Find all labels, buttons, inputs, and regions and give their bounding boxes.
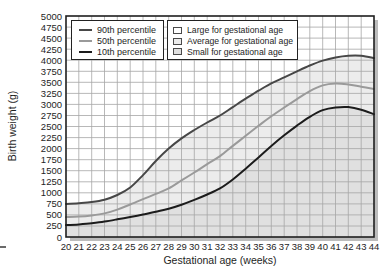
- y-tick-label: 4250: [26, 44, 62, 55]
- y-axis-title: Birth weight (g): [6, 91, 18, 162]
- y-tick-label: 3000: [26, 99, 62, 110]
- x-tick-label: 44: [364, 241, 384, 252]
- area-legend-row: Average for gestational age: [173, 36, 297, 47]
- y-tick-label: 2500: [26, 121, 62, 132]
- line-legend-label: 50th percentile: [97, 36, 156, 46]
- y-tick-label: 2000: [26, 143, 62, 154]
- y-tick-label: 250: [26, 220, 62, 231]
- line-legend-row: 50th percentile: [79, 36, 163, 47]
- y-tick-label: 2250: [26, 132, 62, 143]
- y-tick-label: 2750: [26, 110, 62, 121]
- line-legend-row: 90th percentile: [79, 25, 163, 36]
- area-swatch-small: [173, 48, 182, 55]
- line-legend-label: 90th percentile: [97, 25, 156, 35]
- area-legend-row: Large for gestational age: [173, 25, 297, 36]
- line-swatch-90th-percentile: [79, 29, 92, 31]
- y-tick-label: 1500: [26, 165, 62, 176]
- area-legend-label: Average for gestational age: [187, 36, 293, 46]
- y-tick-label: 1750: [26, 154, 62, 165]
- line-legend-row: 10th percentile: [79, 46, 163, 57]
- line-swatch-50th-percentile: [79, 40, 92, 42]
- y-tick-label: 1000: [26, 187, 62, 198]
- line-swatch-10th-percentile: [79, 51, 92, 53]
- y-tick-label: 3500: [26, 77, 62, 88]
- y-tick-label: 4000: [26, 55, 62, 66]
- area-legend-label: Small for gestational age: [187, 47, 283, 57]
- page-scan-artifact: [0, 246, 6, 248]
- y-tick-label: 750: [26, 198, 62, 209]
- area-legend: Large for gestational age Average for ge…: [167, 20, 298, 60]
- line-legend: 90th percentile 50th percentile 10th per…: [71, 20, 164, 60]
- area-legend-label: Large for gestational age: [187, 25, 283, 35]
- y-tick-label: 3750: [26, 66, 62, 77]
- area-swatch-large: [173, 27, 182, 34]
- y-tick-label: 1250: [26, 176, 62, 187]
- y-tick-label: 4750: [26, 22, 62, 33]
- y-tick-label: 5000: [26, 11, 62, 22]
- x-axis-title: Gestational age (weeks): [66, 254, 374, 266]
- y-tick-label: 500: [26, 209, 62, 220]
- y-tick-label: 3250: [26, 88, 62, 99]
- y-tick-label: 4500: [26, 33, 62, 44]
- birth-weight-growth-chart: 0250500750100012501500175020002250250027…: [0, 0, 392, 272]
- area-legend-row: Small for gestational age: [173, 46, 297, 57]
- line-legend-label: 10th percentile: [97, 47, 156, 57]
- area-swatch-average: [173, 38, 182, 45]
